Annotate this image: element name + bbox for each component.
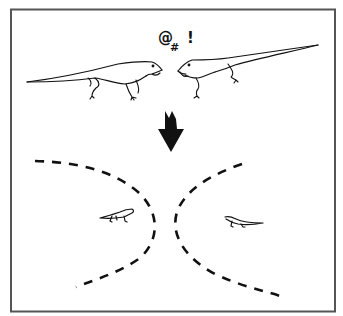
territory-diagram: @ # !: [0, 0, 343, 316]
figure-frame: [11, 10, 335, 312]
symbol-exclamation: !: [187, 29, 194, 47]
symbol-hash: #: [170, 41, 179, 54]
